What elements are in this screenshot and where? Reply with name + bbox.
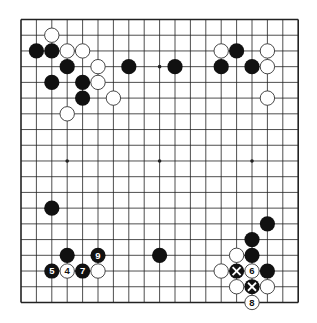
black-stone	[44, 75, 59, 90]
black-stone	[44, 43, 59, 58]
go-board-diagram: 954768	[0, 0, 317, 323]
white-stone	[91, 75, 105, 89]
star-point	[65, 159, 69, 163]
move-number-label: 4	[65, 265, 71, 276]
star-point	[158, 65, 162, 69]
white-stone	[260, 280, 274, 294]
black-stone	[152, 248, 167, 263]
black-stone	[229, 263, 244, 278]
black-stone: 7	[75, 263, 90, 278]
black-stone	[44, 201, 59, 216]
white-stone	[75, 44, 89, 58]
move-number-label: 8	[249, 297, 254, 308]
black-stone	[214, 59, 229, 74]
go-board: 954768	[0, 0, 317, 323]
black-stone	[60, 248, 75, 263]
move-number-label: 5	[49, 265, 55, 276]
white-stone	[91, 59, 105, 73]
white-stone	[260, 44, 274, 58]
white-stone	[45, 28, 59, 42]
white-stone: 6	[245, 264, 259, 278]
white-stone	[229, 248, 243, 262]
white-stone	[214, 264, 228, 278]
black-stone	[244, 279, 259, 294]
white-stone: 8	[245, 295, 259, 309]
white-stone	[60, 44, 74, 58]
black-stone	[244, 59, 259, 74]
stones: 954768	[29, 28, 275, 310]
move-number-label: 6	[249, 265, 254, 276]
black-stone	[75, 91, 90, 106]
white-stone	[260, 91, 274, 105]
white-stone	[60, 107, 74, 121]
black-stone	[167, 59, 182, 74]
star-point	[158, 159, 162, 163]
move-number-label: 7	[80, 265, 85, 276]
black-stone	[60, 59, 75, 74]
move-number-label: 9	[95, 250, 100, 261]
white-stone	[91, 264, 105, 278]
black-stone: 5	[44, 263, 59, 278]
black-stone	[229, 43, 244, 58]
black-stone	[244, 248, 259, 263]
black-stone	[260, 216, 275, 231]
white-stone	[260, 59, 274, 73]
black-stone	[29, 43, 44, 58]
black-stone	[121, 59, 136, 74]
black-stone	[260, 263, 275, 278]
white-stone	[106, 91, 120, 105]
black-stone	[244, 232, 259, 247]
black-stone: 9	[90, 248, 105, 263]
white-stone	[229, 280, 243, 294]
white-stone	[214, 44, 228, 58]
black-stone	[75, 75, 90, 90]
star-point	[250, 159, 254, 163]
white-stone: 4	[60, 264, 74, 278]
